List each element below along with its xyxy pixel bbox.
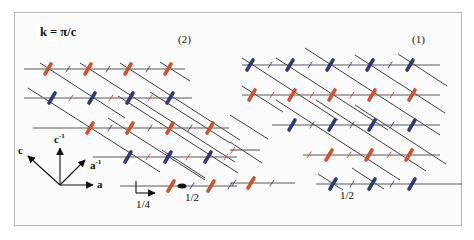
panel-1-label: (1) [412, 33, 425, 45]
figure: k = π/c (2) (1) a c c-1 a-1 1/4 1/2 1/2 [0, 0, 474, 240]
axes-vectors [28, 148, 93, 185]
a-inverse-label: a-1 [90, 158, 101, 171]
panel-2-lattice [24, 62, 240, 191]
quarter-label: 1/4 [136, 198, 150, 210]
half-label-left: 1/2 [185, 191, 199, 203]
c-axis-label: c [18, 144, 23, 156]
black-dot [178, 184, 187, 189]
c-axis-arrow [28, 156, 60, 185]
panel-2-label: (2) [178, 33, 191, 45]
quarter-shift-marker [136, 181, 155, 193]
row-4-marks [231, 147, 412, 188]
half-label-right: 1/2 [340, 189, 354, 201]
c-inverse-label: c-1 [54, 132, 65, 145]
a-inverse-arrow [60, 160, 85, 185]
a-axis-label: a [97, 178, 103, 190]
wavevector-label: k = π/c [36, 24, 80, 41]
panel-1-lattice [230, 48, 462, 190]
horizontal-rows [230, 65, 462, 184]
